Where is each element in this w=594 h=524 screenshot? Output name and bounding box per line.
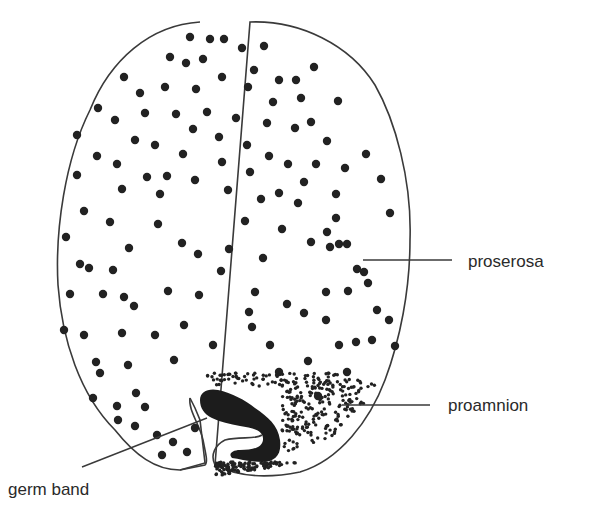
label-germ-band: germ band — [8, 480, 89, 500]
germ-band — [200, 389, 280, 462]
label-proamnion: proamnion — [448, 396, 528, 416]
germ-band-leader — [82, 418, 207, 467]
label-proserosa: proserosa — [468, 252, 544, 272]
